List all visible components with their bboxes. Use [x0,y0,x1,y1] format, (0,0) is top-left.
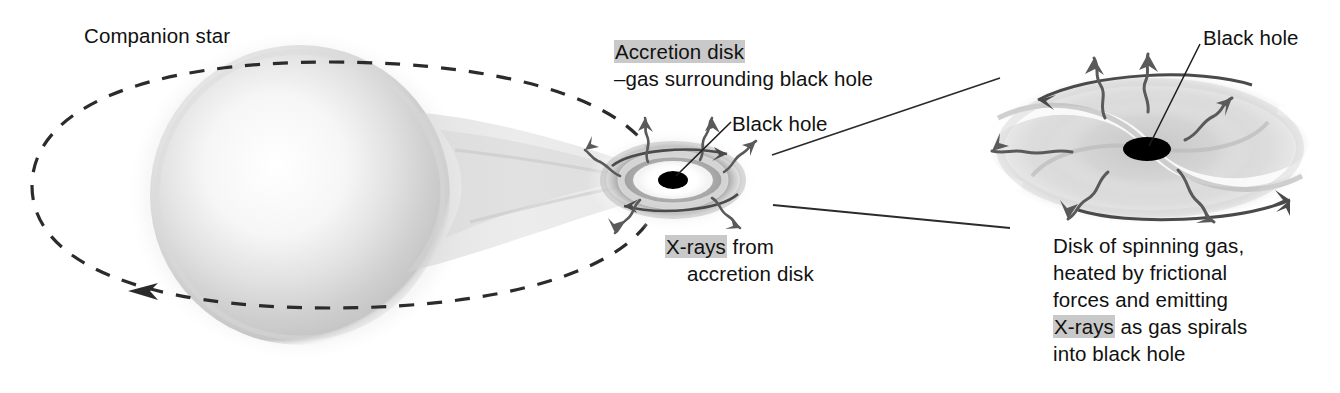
label-xrays-from-accretion-disk: X-rays from accretion disk [665,233,814,287]
label-accretion-disk: Accretion disk –gas surrounding black ho… [614,38,873,92]
label-companion-star: Companion star [84,22,230,49]
xrays-term: X-rays [665,235,727,258]
disk-desc-line-1: Disk of spinning gas, [1053,232,1247,259]
black-hole-diagram: Companion star Accretion disk –gas surro… [0,0,1340,393]
xrays-rest: from [727,235,774,258]
black-hole-magnified [1123,137,1171,161]
accretion-disk-term: Accretion disk [614,40,745,63]
accretion-disk-magnified[interactable] [982,54,1318,226]
disk-desc-line-4-rest: as gas spirals [1115,315,1248,338]
orbit-direction-arrowhead [128,283,158,300]
disk-desc-line-5: into black hole [1053,340,1247,367]
accretion-disk-gloss: –gas surrounding black hole [614,65,873,92]
disk-desc-xrays-term: X-rays [1053,315,1115,338]
disk-desc-line-3: forces and emitting [1053,286,1247,313]
black-hole-central [658,171,688,189]
magnifier-connectors [772,78,1010,228]
companion-star [125,27,475,363]
label-black-hole-magnified: Black hole [1203,24,1299,51]
xrays-line-2: accretion disk [665,260,814,287]
disk-desc-line-2: heated by frictional [1053,259,1247,286]
label-black-hole-central: Black hole [732,110,828,137]
label-disk-description: Disk of spinning gas, heated by friction… [1053,232,1247,367]
